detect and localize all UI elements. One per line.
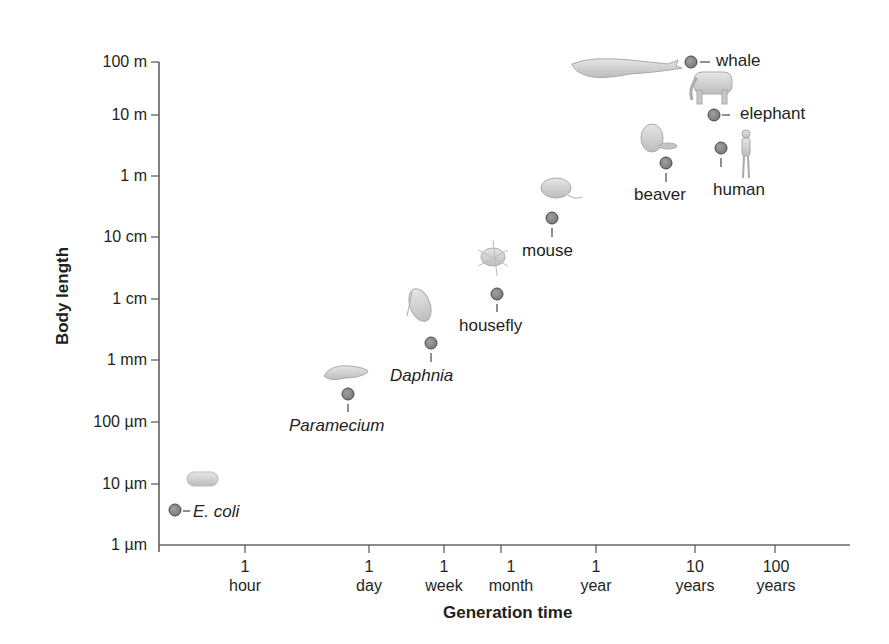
xtick-label-month: 1 month bbox=[471, 557, 551, 595]
xtick-unit: years bbox=[736, 576, 816, 595]
xtick-unit: month bbox=[471, 576, 551, 595]
point-label-mouse: mouse bbox=[522, 241, 573, 261]
xtick-unit: years bbox=[655, 576, 735, 595]
beaver-illustration bbox=[641, 124, 677, 152]
point-label-daphnia: Daphnia bbox=[390, 366, 453, 386]
xtick-value: 1 bbox=[471, 557, 551, 576]
marker-ecoli bbox=[169, 504, 181, 516]
marker-beaver bbox=[660, 157, 672, 169]
xtick-label-day: 1 day bbox=[329, 557, 409, 595]
x-axis bbox=[159, 545, 850, 553]
marker-whale bbox=[685, 56, 697, 68]
elephant-illustration bbox=[691, 72, 732, 104]
ytick-label: 10 µm bbox=[47, 475, 147, 493]
paramecium-illustration bbox=[324, 366, 368, 380]
xtick-value: 1 bbox=[556, 557, 636, 576]
xtick-value: 1 bbox=[329, 557, 409, 576]
xtick-label-100-years: 100 years bbox=[736, 557, 816, 595]
marker-daphnia bbox=[425, 337, 437, 349]
point-label-housefly: housefly bbox=[459, 316, 522, 336]
marker-elephant bbox=[708, 109, 720, 121]
point-label-elephant: elephant bbox=[740, 104, 805, 124]
xtick-label-year: 1 year bbox=[556, 557, 636, 595]
data-markers bbox=[169, 56, 727, 516]
x-axis-title: Generation time bbox=[443, 603, 572, 623]
mouse-illustration bbox=[541, 178, 582, 198]
marker-paramecium bbox=[342, 388, 354, 400]
point-label-whale: whale bbox=[716, 51, 760, 71]
xtick-value: 1 bbox=[205, 557, 285, 576]
xtick-value: 100 bbox=[736, 557, 816, 576]
y-axis bbox=[151, 62, 159, 552]
xtick-unit: year bbox=[556, 576, 636, 595]
ecoli-illustration bbox=[187, 472, 218, 486]
point-label-ecoli: E. coli bbox=[193, 502, 239, 522]
housefly-illustration bbox=[478, 240, 508, 276]
marker-mouse bbox=[546, 212, 558, 224]
chart-container: 100 m 10 m 1 m 10 cm 1 cm 1 mm 100 µm 10… bbox=[0, 0, 889, 644]
human-illustration bbox=[742, 130, 750, 178]
xtick-unit: hour bbox=[205, 576, 285, 595]
y-axis-title: Body length bbox=[53, 226, 73, 366]
ytick-label: 1 µm bbox=[47, 536, 147, 554]
marker-housefly bbox=[491, 288, 503, 300]
ytick-label: 100 µm bbox=[47, 413, 147, 431]
ytick-label: 100 m bbox=[47, 53, 147, 71]
ytick-label: 10 m bbox=[47, 106, 147, 124]
point-label-human: human bbox=[713, 180, 765, 200]
point-label-beaver: beaver bbox=[634, 185, 686, 205]
xtick-label-10-years: 10 years bbox=[655, 557, 735, 595]
xtick-label-hour: 1 hour bbox=[205, 557, 285, 595]
ytick-label: 1 m bbox=[47, 167, 147, 185]
daphnia-illustration bbox=[405, 286, 435, 325]
point-label-paramecium: Paramecium bbox=[289, 416, 384, 436]
whale-illustration bbox=[572, 59, 682, 78]
marker-human bbox=[715, 142, 727, 154]
xtick-value: 10 bbox=[655, 557, 735, 576]
xtick-unit: day bbox=[329, 576, 409, 595]
